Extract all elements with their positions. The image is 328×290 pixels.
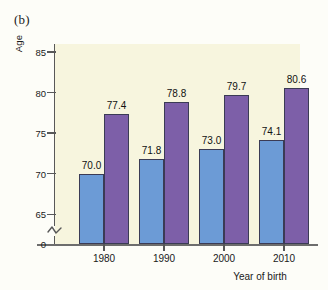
x-tick-mark — [163, 244, 164, 251]
y-tick-label: 85 — [20, 47, 46, 58]
y-axis-line — [54, 44, 55, 226]
x-tick-mark — [223, 244, 224, 251]
bar-value-label-female-2000: 79.7 — [217, 81, 257, 92]
y-origin-label: 0 — [20, 239, 46, 250]
x-tick-label: 2010 — [259, 253, 309, 264]
bar-value-label-female-2010: 80.6 — [277, 74, 317, 85]
bar-female-2000 — [224, 95, 249, 244]
y-tick-mark — [47, 173, 56, 174]
x-tick-label: 1990 — [139, 253, 189, 264]
bar-value-label-female-1990: 78.8 — [157, 88, 197, 99]
y-tick-label: 65 — [20, 209, 46, 220]
bar-female-1980 — [104, 114, 129, 244]
bar-male-1990 — [139, 159, 164, 244]
y-tick-label: 70 — [20, 168, 46, 179]
x-axis-line — [37, 244, 318, 246]
x-tick-mark — [283, 244, 284, 251]
y-tick-mark — [47, 92, 56, 93]
x-tick-label: 2000 — [199, 253, 249, 264]
x-tick-mark — [103, 244, 104, 251]
y-tick-mark — [47, 51, 56, 52]
y-tick-label: 75 — [20, 128, 46, 139]
figure-panel: (b) Age 85807570650 1980199020002010 70.… — [0, 0, 328, 290]
y-tick-mark — [47, 132, 56, 133]
x-axis-title: Year of birth — [200, 271, 320, 282]
bar-male-1980 — [79, 174, 104, 244]
y-tick-label: 80 — [20, 87, 46, 98]
bar-male-2000 — [199, 149, 224, 244]
bar-female-2010 — [284, 88, 309, 244]
axis-break-icon — [47, 222, 63, 238]
bar-value-label-female-1980: 77.4 — [97, 100, 137, 111]
x-tick-label: 1980 — [79, 253, 129, 264]
bar-male-2010 — [259, 140, 284, 244]
bar-female-1990 — [164, 102, 189, 244]
y-tick-mark — [47, 214, 56, 215]
